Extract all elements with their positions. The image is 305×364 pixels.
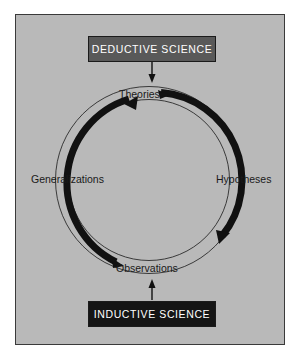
- inductive-science-label: INDUCTIVE SCIENCE: [94, 308, 210, 320]
- stage-label-theories: Theories: [119, 88, 160, 100]
- inductive-connector-arrowhead: [149, 279, 156, 288]
- figure-container: DEDUCTIVE SCIENCE INDUCTIVE SCIENCE Theo…: [0, 0, 305, 364]
- deductive-connector: [149, 62, 156, 83]
- stage-label-hypotheses: Hypotheses: [216, 173, 271, 185]
- stage-label-generalizations: Generalizations: [31, 173, 104, 185]
- stage-label-observations: Observations: [116, 262, 178, 274]
- right-arc-group: [158, 90, 242, 244]
- inductive-science-box: INDUCTIVE SCIENCE: [88, 301, 216, 327]
- deductive-science-box: DEDUCTIVE SCIENCE: [88, 36, 216, 62]
- right-arc-band: [161, 93, 242, 237]
- deductive-science-label: DEDUCTIVE SCIENCE: [92, 43, 212, 55]
- inductive-connector: [149, 279, 156, 300]
- deductive-connector-arrowhead: [149, 74, 156, 83]
